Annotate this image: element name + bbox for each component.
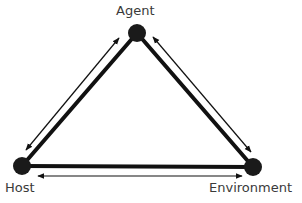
edge-host-environment bbox=[22, 166, 253, 167]
arrow-agent-environment bbox=[153, 37, 251, 152]
arrows bbox=[26, 37, 251, 176]
node-agent bbox=[128, 24, 146, 42]
node-host bbox=[13, 157, 31, 175]
node-environment bbox=[244, 158, 262, 176]
edges bbox=[22, 33, 253, 167]
edge-agent-environment bbox=[137, 33, 253, 167]
triangle-diagram bbox=[0, 0, 302, 203]
label-agent: Agent bbox=[116, 3, 154, 18]
edge-agent-host bbox=[22, 33, 137, 166]
label-environment: Environment bbox=[209, 180, 292, 195]
arrow-agent-host bbox=[26, 38, 119, 150]
label-host: Host bbox=[5, 180, 35, 195]
